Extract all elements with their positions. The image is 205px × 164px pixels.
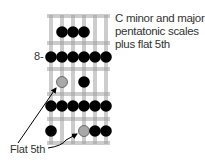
diagram-caption: C minor and major pentatonic scales plus…	[115, 12, 205, 51]
caption-line-2: pentatonic scales	[115, 25, 205, 38]
scale-note-dot	[100, 125, 112, 137]
flat-5th-label: Flat 5th	[10, 143, 45, 155]
scale-note-dot	[89, 51, 101, 63]
scale-note-dot	[56, 51, 68, 63]
scale-note-dot	[67, 100, 79, 112]
caption-line-1: C minor and major	[115, 12, 205, 25]
fret-number-label: 8-	[34, 50, 44, 62]
scale-note-dot	[45, 51, 57, 63]
scale-note-dot	[78, 26, 90, 38]
scale-note-dot	[78, 51, 90, 63]
scale-note-dot	[56, 100, 68, 112]
scale-note-dot	[45, 125, 57, 137]
scale-note-dot	[100, 51, 112, 63]
scale-note-dot	[89, 100, 101, 112]
scale-note-dot	[78, 76, 90, 88]
scale-note-dot	[67, 51, 79, 63]
scale-note-dot	[100, 100, 112, 112]
scale-note-dot	[67, 26, 79, 38]
flat-5th-note-dot	[79, 126, 90, 137]
fret-lines	[47, 15, 110, 144]
scale-note-dot	[78, 100, 90, 112]
scale-note-dot	[56, 26, 68, 38]
flat-5th-note-dot	[57, 77, 68, 88]
scale-note-dot	[89, 125, 101, 137]
caption-line-3: plus flat 5th	[115, 38, 205, 51]
